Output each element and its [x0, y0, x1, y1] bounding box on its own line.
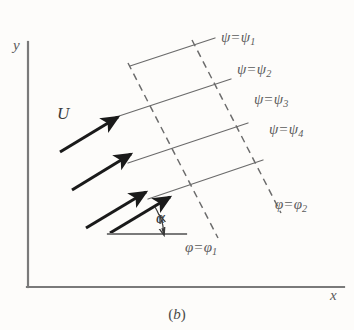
psi-subscript-1: 1 — [250, 36, 255, 47]
psi-symbol-4: ψ — [269, 121, 278, 137]
psi-subscript-4: 4 — [298, 128, 303, 139]
y-axis-label: y — [13, 38, 20, 53]
velocity-arrow-group — [60, 117, 170, 233]
diagram-canvas — [0, 0, 354, 330]
psi-subscript-3: 3 — [283, 98, 288, 109]
phi-equals-sign-2: = — [283, 196, 293, 212]
phi-subscript-2: 2 — [302, 203, 307, 214]
velocity-arrow-3 — [86, 192, 146, 228]
phi-subscript-1: 1 — [212, 246, 217, 257]
streamline-psi-3 — [128, 123, 248, 163]
velocity-label-U: U — [57, 105, 69, 122]
caption-letter: b — [173, 306, 181, 322]
figure-caption: (b) — [0, 306, 354, 323]
psi-value-1: ψ — [241, 29, 250, 45]
psi-value-3: ψ — [274, 91, 283, 107]
psi-symbol-2: ψ — [237, 61, 246, 77]
phi-value-2: φ — [294, 196, 302, 212]
psi-symbol-3: ψ — [254, 91, 263, 107]
psi-value-2: ψ — [257, 61, 266, 77]
streamline-label-psi-1: ψ=ψ1 — [221, 30, 255, 47]
equipotential-label-phi-2: φ=φ2 — [275, 197, 307, 214]
phi-value-1: φ — [204, 239, 212, 255]
caption-close-paren: ) — [181, 306, 186, 322]
equals-sign-1: = — [230, 29, 240, 45]
phi-equals-sign-1: = — [193, 239, 203, 255]
velocity-arrow-2 — [72, 154, 131, 190]
psi-value-4: ψ — [289, 121, 298, 137]
equipotential-phi-1 — [128, 63, 218, 238]
equals-sign-4: = — [278, 121, 288, 137]
streamline-label-psi-4: ψ=ψ4 — [269, 122, 303, 139]
equals-sign-3: = — [263, 91, 273, 107]
streamline-label-psi-3: ψ=ψ3 — [254, 92, 288, 109]
figure-container: U α y x ψ=ψ1 ψ=ψ2 ψ=ψ3 ψ=ψ4 φ=φ1 φ=φ2 (b… — [0, 0, 354, 330]
streamline-psi-2 — [110, 79, 231, 119]
psi-symbol-1: ψ — [221, 29, 230, 45]
psi-subscript-2: 2 — [266, 68, 271, 79]
x-axis-label: x — [330, 288, 337, 303]
angle-label-alpha: α — [156, 209, 165, 226]
equipotential-label-phi-1: φ=φ1 — [185, 240, 217, 257]
streamline-psi-4 — [148, 160, 263, 199]
streamline-label-psi-2: ψ=ψ2 — [237, 62, 271, 79]
streamline-psi-1 — [130, 38, 215, 66]
equals-sign-2: = — [246, 61, 256, 77]
